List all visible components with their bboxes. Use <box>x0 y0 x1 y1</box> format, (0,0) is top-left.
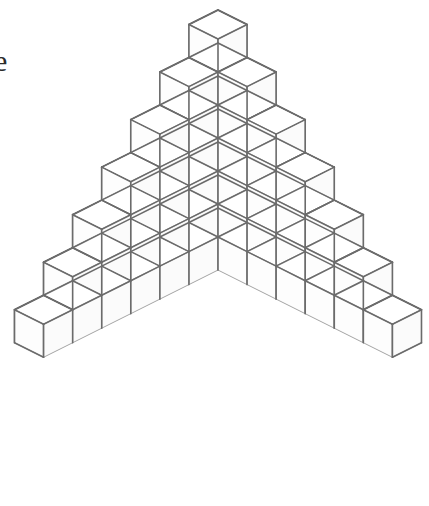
isometric-cube-pyramid <box>0 0 429 506</box>
figure-canvas: e <box>0 0 429 506</box>
clipped-edge-text: e <box>0 46 16 76</box>
